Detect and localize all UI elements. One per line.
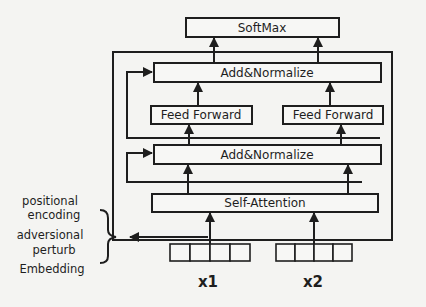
- input-label-x2: x2: [303, 273, 323, 291]
- embedding-x1: [170, 244, 250, 261]
- add-normalize-bottom-block: Add&Normalize: [154, 145, 381, 164]
- side-label-perturb: perturb: [33, 243, 76, 257]
- feed-forward-left-block: Feed Forward: [151, 106, 252, 124]
- self-attention-block: Self-Attention: [152, 194, 378, 212]
- add-normalize-bottom-label: Add&Normalize: [220, 148, 313, 162]
- side-label-embedding: Embedding: [19, 262, 84, 276]
- embedding-x2: [276, 244, 352, 261]
- self-attention-label: Self-Attention: [224, 196, 305, 210]
- feed-forward-left-label: Feed Forward: [161, 108, 242, 122]
- feed-forward-right-block: Feed Forward: [283, 106, 383, 124]
- side-label-adversional: adversional: [17, 228, 84, 242]
- transformer-diagram: SoftMax Add&Normalize Feed Forward Feed …: [0, 0, 426, 307]
- add-normalize-top-label: Add&Normalize: [220, 66, 313, 80]
- add-normalize-top-block: Add&Normalize: [154, 63, 381, 82]
- feed-forward-right-label: Feed Forward: [293, 108, 374, 122]
- side-label-positional: positional: [22, 194, 78, 208]
- softmax-block: SoftMax: [186, 18, 339, 37]
- softmax-label: SoftMax: [238, 21, 287, 35]
- side-label-encoding: encoding: [28, 208, 81, 222]
- input-label-x1: x1: [198, 273, 218, 291]
